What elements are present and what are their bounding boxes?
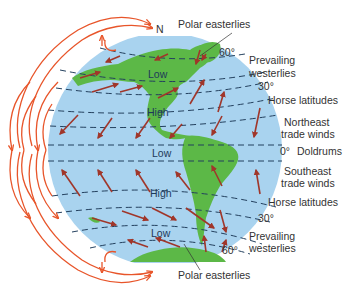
pressure-zone-low-60n: Low (148, 68, 168, 80)
north-pole-label: N (156, 23, 164, 35)
polar-easterlies-north-label: Polar easterlies (178, 18, 250, 30)
prevailing-westerlies-north-line1: Prevailing (249, 54, 295, 66)
southeast-trade-winds-line2: trade winds (281, 177, 335, 189)
horse-latitudes-south-label: Horse latitudes (268, 196, 338, 208)
northeast-trade-winds-line1: Northeast (284, 116, 330, 128)
pressure-zone-high-30s: High (150, 187, 172, 199)
lat-30n-label: 30° (258, 80, 274, 92)
lat-equator-label: 0° (280, 145, 290, 157)
prevailing-westerlies-north-line2: westerlies (248, 67, 296, 79)
lat-60s-label: 60° (222, 244, 238, 256)
doldrums-label: Doldrums (297, 145, 342, 157)
horse-latitudes-north-label: Horse latitudes (268, 94, 338, 106)
polar-easterlies-south-label: Polar easterlies (178, 269, 250, 281)
prevailing-westerlies-south-line1: Prevailing (249, 230, 295, 242)
pressure-zone-low-equator: Low (152, 147, 172, 159)
northeast-trade-winds-line2: trade winds (281, 128, 335, 140)
pressure-zone-low-60s: Low (151, 227, 171, 239)
lat-30s-label: 30° (258, 212, 274, 224)
pressure-zone-high-30n: High (147, 106, 169, 118)
southeast-trade-winds-line1: Southeast (284, 165, 331, 177)
wind-circulation-diagram: N Low High Low High Low Polar easterlies… (0, 0, 356, 300)
lat-60n-label: 60° (219, 46, 235, 58)
prevailing-westerlies-south-line2: westerlies (248, 242, 296, 254)
